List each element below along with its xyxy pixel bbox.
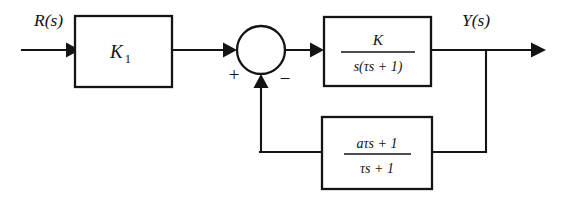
feedback-denominator-rest: s + 1 [365, 161, 394, 176]
feedback-numerator: aτs + 1 [357, 136, 398, 151]
plant-input-arrowhead-icon [310, 43, 324, 58]
plant-denominator-middle: s + 1 [369, 59, 398, 74]
sum-input-arrowhead-icon [223, 43, 237, 58]
feedback-compensator-block [322, 117, 432, 189]
gain-block-symbol: K [109, 41, 124, 62]
forward-gain-block [75, 16, 172, 87]
feedback-input-arrowhead-icon [254, 74, 269, 88]
block-diagram-container: R(s) K1 + − K s(τs + 1) Y(s) [0, 0, 564, 202]
summing-junction [237, 26, 285, 74]
plant-numerator: K [372, 31, 384, 48]
plant-denominator-close: ) [397, 59, 403, 75]
summing-junction-plus-sign: + [229, 64, 240, 85]
feedback-numerator-a: a [357, 136, 364, 151]
plant-denominator: s(τs + 1) [354, 59, 403, 75]
output-arrowhead-icon [531, 43, 546, 58]
feedback-numerator-rest: s + 1 [369, 136, 398, 151]
output-signal-label: Y(s) [462, 10, 490, 30]
control-system-block-diagram: R(s) K1 + − K s(τs + 1) Y(s) [0, 0, 564, 202]
input-signal-label: R(s) [33, 10, 63, 30]
gain-block-subscript: 1 [125, 52, 131, 66]
summing-junction-minus-sign: − [280, 68, 291, 89]
feedback-denominator: τs + 1 [360, 161, 394, 176]
